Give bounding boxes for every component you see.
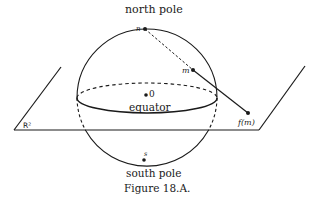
point-m [191,68,195,72]
plane-label: R² [23,122,31,130]
south-pole-label: south pole [126,168,181,179]
point-s-label: s [144,151,147,158]
figure-caption: Figure 18.A. [124,183,190,194]
stereographic-projection-figure: north pole n m f(m) 0 equator R² s south… [0,0,313,199]
sphere [77,29,217,166]
plane [14,66,305,130]
north-pole-label: north pole [125,4,183,15]
image-point-label: f(m) [238,119,255,127]
point-m-label: m [182,67,190,75]
origin-label: 0 [149,90,155,99]
points [142,27,250,162]
point-n-label: n [136,26,141,33]
point-origin [144,93,148,97]
equator-label: equator [129,102,171,113]
point-f-m [246,111,250,115]
point-s [142,158,146,162]
point-n [143,27,147,31]
